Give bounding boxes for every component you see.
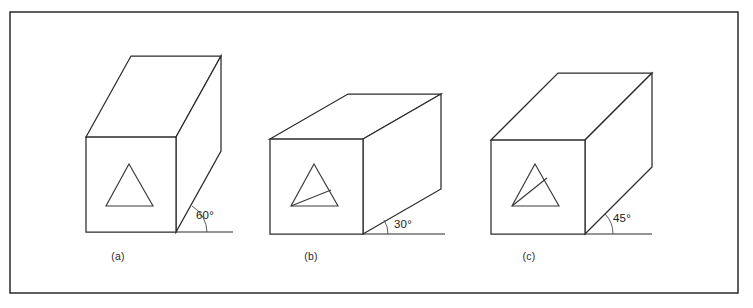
box-a-front-face	[86, 137, 176, 232]
figure-canvas: 60° (a) 30° (b) 45° (c)	[0, 0, 753, 308]
oblique-projection-figure: 60° (a) 30° (b) 45° (c)	[0, 0, 753, 308]
box-a-caption: (a)	[111, 250, 125, 262]
oblique-box-b: 30° (b)	[270, 94, 445, 262]
box-b-angle-label: 30°	[394, 218, 412, 230]
box-b-front-face	[270, 139, 363, 234]
box-c-angle-label: 45°	[613, 212, 631, 224]
box-c-angle-arc	[605, 214, 613, 234]
box-c-caption: (c)	[522, 250, 535, 262]
oblique-box-c: 45° (c)	[491, 73, 652, 262]
box-c-front-face	[491, 140, 585, 234]
box-a-angle-label: 60°	[196, 209, 214, 221]
oblique-box-a: 60° (a)	[86, 56, 233, 262]
box-b-caption: (b)	[304, 250, 318, 262]
